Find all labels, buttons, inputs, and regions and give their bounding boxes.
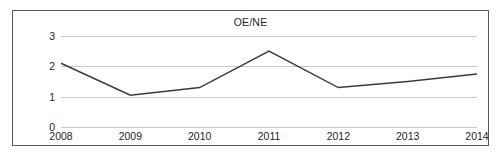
x-axis-tick-label: 2013 — [378, 131, 438, 142]
gridline — [61, 127, 477, 128]
y-axis-tick-label: 2 — [31, 61, 55, 72]
chart-title: OE/NE — [13, 16, 488, 28]
plot-area — [61, 36, 477, 127]
line-series-oe-ne — [61, 36, 477, 127]
x-axis-tick-label: 2011 — [239, 131, 299, 142]
x-axis-tick-label: 2012 — [308, 131, 368, 142]
y-axis-tick-label: 3 — [31, 31, 55, 42]
x-axis-tick-label: 2010 — [170, 131, 230, 142]
x-axis-tick-labels: 2008200920102011201220132014 — [61, 131, 477, 147]
x-axis-tick-label: 2009 — [100, 131, 160, 142]
y-axis-tick-labels: 0123 — [31, 36, 55, 127]
x-axis-tick-label: 2014 — [447, 131, 502, 142]
chart-inner: OE/NE 0123 2008200920102011201220132014 — [13, 11, 488, 145]
chart-figure: OE/NE 0123 2008200920102011201220132014 — [0, 0, 502, 159]
y-axis-tick-label: 1 — [31, 92, 55, 103]
x-axis-tick-label: 2008 — [31, 131, 91, 142]
chart-frame: OE/NE 0123 2008200920102011201220132014 — [12, 10, 489, 146]
